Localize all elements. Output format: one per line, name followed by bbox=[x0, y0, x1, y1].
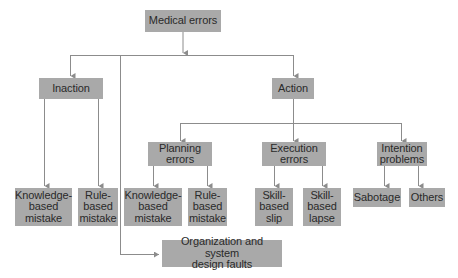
node-label: Inaction bbox=[52, 83, 90, 95]
node-skill-based-slip: Skill- based slip bbox=[255, 188, 293, 226]
node-organization-system-design-faults: Organization and system design faults bbox=[162, 240, 282, 267]
node-label: Intention problems bbox=[380, 143, 424, 166]
node-label: Sabotage bbox=[354, 192, 400, 204]
node-label: Planning errors bbox=[159, 143, 201, 166]
node-sabotage: Sabotage bbox=[353, 188, 401, 207]
node-intention-problems: Intention problems bbox=[377, 142, 427, 166]
node-medical-errors: Medical errors bbox=[145, 10, 221, 32]
node-inaction: Inaction bbox=[39, 78, 103, 99]
node-others: Others bbox=[409, 188, 445, 207]
node-action: Action bbox=[272, 78, 314, 99]
node-planning-knowledge-based-mistake: Knowledge- based mistake bbox=[124, 188, 182, 226]
medical-errors-diagram: Medical errors Inaction Action Planning … bbox=[0, 0, 458, 278]
node-label: Action bbox=[278, 83, 308, 95]
node-planning-errors: Planning errors bbox=[148, 142, 212, 166]
node-label: Rule- based mistake bbox=[189, 190, 226, 225]
node-skill-based-lapse: Skill- based lapse bbox=[303, 188, 341, 226]
node-inaction-rule-based-mistake: Rule- based mistake bbox=[78, 188, 118, 226]
node-label: Others bbox=[411, 192, 443, 204]
node-planning-rule-based-mistake: Rule- based mistake bbox=[188, 188, 227, 226]
node-label: Organization and system design faults bbox=[164, 236, 280, 271]
node-label: Rule- based mistake bbox=[79, 190, 116, 225]
node-label: Knowledge- based mistake bbox=[15, 190, 72, 225]
node-label: Knowledge- based mistake bbox=[124, 190, 181, 225]
node-label: Execution errors bbox=[270, 143, 317, 166]
node-execution-errors: Execution errors bbox=[262, 142, 326, 166]
node-label: Medical errors bbox=[149, 15, 217, 27]
node-inaction-knowledge-based-mistake: Knowledge- based mistake bbox=[15, 188, 72, 226]
node-label: Skill- based slip bbox=[259, 190, 288, 225]
node-label: Skill- based lapse bbox=[307, 190, 336, 225]
